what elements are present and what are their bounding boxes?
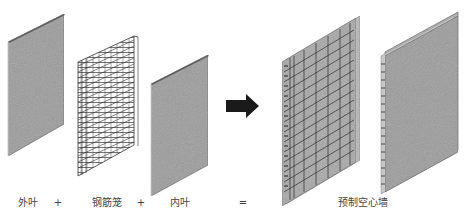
outer-leaf-panel xyxy=(8,14,65,156)
right-arrow-icon xyxy=(226,94,259,118)
label-rebar-cage: 钢筋笼 xyxy=(92,196,122,210)
operator-equals: = xyxy=(239,196,247,210)
finished-hollow-wall xyxy=(381,12,458,194)
diagram-canvas xyxy=(0,0,466,220)
assembled-wall-mesh-view xyxy=(282,16,360,206)
operator-plus-2: + xyxy=(137,196,145,210)
label-inner-leaf: 内叶 xyxy=(170,196,190,210)
rebar-cage xyxy=(78,36,138,176)
operator-plus-1: + xyxy=(54,196,62,210)
inner-leaf-panel xyxy=(151,55,209,196)
label-prefab-hollow-wall: 预制空心墙 xyxy=(338,196,388,210)
label-outer-leaf: 外叶 xyxy=(18,196,38,210)
